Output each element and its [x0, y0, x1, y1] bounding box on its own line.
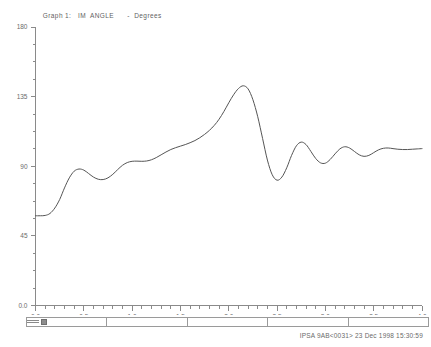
y-tick-label: 90 [20, 163, 28, 170]
x-tick-label: 2.5 [273, 313, 282, 316]
scrollbar-segment[interactable] [349, 318, 428, 326]
x-tick-label: 2.0 [224, 313, 233, 316]
y-tick-label: 0.0 [18, 302, 27, 309]
scrollbar-segment[interactable] [268, 318, 348, 326]
x-axis-tick-labels: 0.00.51.01.52.02.53.03.54.0 [31, 313, 427, 316]
x-tick-label: 0.5 [79, 313, 88, 316]
line-chart: 0.04590135180 0.00.51.01.52.02.53.03.54.… [0, 0, 431, 315]
y-axis-ticks [31, 27, 36, 306]
plot-area: 0.04590135180 0.00.51.01.52.02.53.03.54.… [0, 0, 431, 315]
x-tick-label: 1.0 [128, 313, 137, 316]
scrollbar-left-marks [27, 320, 39, 325]
scrollbar-segment[interactable] [27, 318, 107, 326]
x-axis-ticks [36, 306, 423, 311]
x-tick-label: 4.0 [417, 313, 426, 316]
x-tick-label: 1.5 [176, 313, 185, 316]
y-axis-tick-labels: 0.04590135180 [17, 23, 28, 309]
y-tick-label: 180 [17, 23, 28, 30]
x-tick-label: 3.5 [369, 313, 378, 316]
scrollbar-thumb[interactable] [41, 319, 47, 325]
y-tick-label: 135 [17, 93, 28, 100]
footer-stamp: IPSA 9AB<0031> 23 Dec 1998 15:30:59 [300, 332, 423, 339]
horizontal-scrollbar[interactable] [26, 317, 429, 327]
x-tick-label: 3.0 [321, 313, 330, 316]
graph-window: Graph 1: IM ANGLE - Degrees 0.0459013518… [0, 0, 431, 347]
x-tick-label: 0.0 [31, 313, 40, 316]
scrollbar-segment[interactable] [188, 318, 268, 326]
scrollbar-segment[interactable] [107, 318, 187, 326]
data-series-im-angle [36, 86, 423, 216]
y-tick-label: 45 [20, 232, 28, 239]
